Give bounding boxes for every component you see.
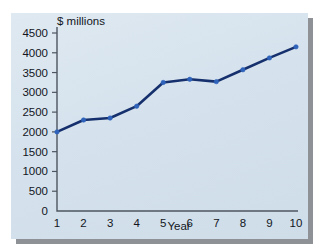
chart-panel: $ millions 05001000150020002500300035004…	[11, 13, 308, 239]
data-point-marker	[161, 80, 165, 84]
chart-screenshot: $ millions 05001000150020002500300035004…	[0, 0, 321, 251]
data-point-marker	[81, 118, 85, 122]
y-tick-label: 2000	[22, 126, 48, 138]
y-tick-label: 3000	[22, 86, 48, 98]
data-point-marker	[188, 77, 192, 81]
x-tick-label: 1	[54, 217, 60, 229]
x-tick-label: 4	[133, 217, 140, 229]
y-tick-label: 4000	[22, 47, 48, 59]
x-tick-label: 8	[240, 217, 246, 229]
y-tick-label: 1000	[22, 165, 48, 177]
x-tick-label: 10	[290, 217, 303, 229]
y-tick-label: 0	[42, 205, 48, 217]
data-point-marker	[267, 56, 271, 60]
line-chart: $ millions 05001000150020002500300035004…	[11, 13, 308, 239]
x-tick-label: 2	[80, 217, 86, 229]
x-tick-label: 3	[107, 217, 113, 229]
y-axis-ticks: 050010001500200025003000350040004500	[22, 27, 57, 217]
data-point-marker	[134, 104, 138, 108]
data-point-marker	[241, 68, 245, 72]
y-tick-label: 3500	[22, 67, 48, 79]
y-tick-label: 2500	[22, 106, 48, 118]
x-tick-label: 5	[160, 217, 166, 229]
x-axis-title: Year	[167, 220, 190, 232]
data-point-marker	[55, 130, 59, 134]
y-tick-label: 500	[29, 185, 48, 197]
y-axis-title: $ millions	[57, 15, 105, 27]
x-tick-label: 9	[266, 217, 272, 229]
y-tick-label: 1500	[22, 146, 48, 158]
y-tick-label: 4500	[22, 27, 48, 39]
data-point-marker	[294, 45, 298, 49]
data-point-marker	[214, 79, 218, 83]
x-tick-label: 7	[213, 217, 219, 229]
data-point-marker	[108, 116, 112, 120]
data-line-series	[57, 47, 296, 132]
